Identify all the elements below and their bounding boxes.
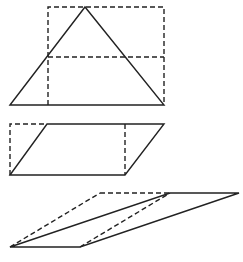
figure-triangle-rectangle bbox=[10, 7, 164, 105]
dashed-right-edge bbox=[80, 193, 170, 247]
dashed-left-edge bbox=[10, 193, 100, 247]
figure-parallelogram-rectangle bbox=[10, 124, 164, 175]
rectangle-dashed-outline bbox=[48, 7, 164, 105]
triangle bbox=[10, 7, 164, 105]
figure-sheared-parallelograms bbox=[10, 193, 239, 247]
parallelogram bbox=[10, 124, 164, 175]
geometry-diagram bbox=[0, 0, 243, 262]
